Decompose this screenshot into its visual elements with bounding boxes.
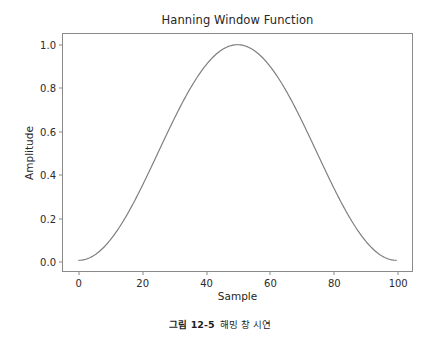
x-tick-mark [270, 271, 271, 275]
y-tick-mark [59, 262, 63, 263]
figure-caption-text: 해밍 창 시연 [220, 319, 271, 330]
figure-container: Hanning Window Function Amplitude 0.00.2… [0, 0, 440, 345]
y-tick-mark [59, 218, 63, 219]
y-tick-mark [59, 44, 63, 45]
hanning-window-curve [79, 45, 397, 261]
chart-title: Hanning Window Function [62, 13, 413, 27]
y-tick-mark [59, 175, 63, 176]
y-axis-label: Amplitude [22, 33, 36, 272]
x-tick-mark [334, 271, 335, 275]
x-axis-label: Sample [62, 290, 413, 302]
y-tick-mark [59, 131, 63, 132]
plot-svg [63, 34, 412, 271]
x-tick-mark [142, 271, 143, 275]
plot-area: 0.00.20.40.60.81.0 020406080100 [62, 33, 413, 272]
x-tick-mark [78, 271, 79, 275]
x-tick-mark [206, 271, 207, 275]
y-axis-label-text: Amplitude [23, 126, 35, 180]
figure-caption-number: 그림 12-5 [169, 319, 214, 330]
figure-caption: 그림 12-5해밍 창 시연 [0, 317, 440, 331]
y-tick-mark [59, 88, 63, 89]
x-tick-mark [398, 271, 399, 275]
